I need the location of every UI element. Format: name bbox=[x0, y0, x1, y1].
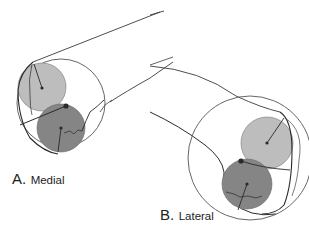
shaft-upper-stub bbox=[150, 57, 173, 65]
shaft-upper-line bbox=[150, 66, 280, 112]
panel-a-medial bbox=[17, 12, 173, 154]
label-panel-b: B. Lateral bbox=[160, 206, 214, 224]
label-b-letter: B. bbox=[160, 206, 174, 223]
anatomy-diagram: A. Medial B. Lateral bbox=[0, 0, 309, 228]
panel-b-lateral bbox=[150, 11, 309, 220]
shaft-top-stub bbox=[150, 11, 164, 15]
dark-center-dot bbox=[245, 182, 248, 185]
contact-dot bbox=[238, 158, 243, 163]
posterior-contour bbox=[82, 100, 104, 131]
label-panel-a: A. Medial bbox=[12, 170, 65, 188]
light-center-dot bbox=[40, 86, 43, 89]
dark-center-dot bbox=[59, 126, 62, 129]
shaft-upper-line bbox=[33, 12, 160, 62]
light-center-dot bbox=[265, 141, 268, 144]
label-a-caption: Medial bbox=[31, 174, 65, 186]
label-a-letter: A. bbox=[12, 170, 26, 187]
shaft-lower-line bbox=[110, 62, 173, 102]
contact-dot bbox=[63, 103, 68, 108]
diagram-canvas bbox=[0, 0, 309, 228]
label-b-caption: Lateral bbox=[179, 210, 214, 222]
